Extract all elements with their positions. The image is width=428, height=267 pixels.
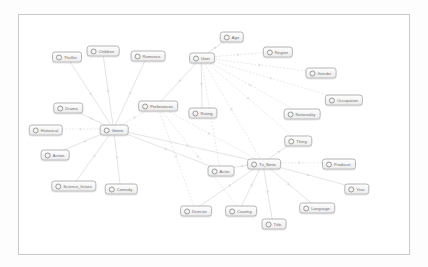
graph-node-thriller[interactable]: Thriller xyxy=(52,52,82,63)
circle-node-icon xyxy=(55,183,61,189)
graph-node-year[interactable]: Year xyxy=(344,184,369,195)
circle-node-icon xyxy=(135,53,141,59)
circle-node-icon xyxy=(104,127,110,133)
graph-node-label: Language xyxy=(311,206,330,211)
graph-node-drama[interactable]: Drama xyxy=(53,103,83,114)
graph-node-genre[interactable]: Genre xyxy=(100,125,129,136)
graph-node-label: Thing xyxy=(296,139,307,144)
diagram-canvas[interactable]: ThrillerChildrenRomanceDramaHistoricalAc… xyxy=(18,14,410,255)
graph-node-label: Action xyxy=(53,153,65,158)
graph-node-actor[interactable]: Actor xyxy=(208,166,235,177)
graph-node-label: Producer xyxy=(334,162,351,167)
graph-node-label: Tv_Serie xyxy=(259,162,276,167)
graph-node-label: Rating xyxy=(200,111,212,116)
graph-node-country[interactable]: Country xyxy=(225,206,257,217)
circle-node-icon xyxy=(267,49,273,55)
graph-node-children[interactable]: Children xyxy=(87,46,120,57)
graph-node-label: Region xyxy=(275,50,288,55)
graph-node-label: Comedy xyxy=(117,187,133,192)
graph-node-label: Children xyxy=(99,49,115,54)
graph-node-user[interactable]: User xyxy=(189,53,215,64)
graph-node-historical[interactable]: Historical xyxy=(29,125,63,136)
graph-node-label: Title xyxy=(274,222,282,227)
circle-node-icon xyxy=(288,138,294,144)
graph-node-label: Romance xyxy=(143,54,161,59)
circle-node-icon xyxy=(57,105,63,111)
graph-node-label: Genre xyxy=(112,128,124,133)
graph-node-director[interactable]: Director xyxy=(180,206,212,217)
graph-node-occupation[interactable]: Occupation xyxy=(325,95,363,106)
circle-node-icon xyxy=(109,186,115,192)
graph-node-label: Preferences xyxy=(150,104,173,109)
graph-node-label: Thriller xyxy=(64,55,77,60)
graph-node-label: Country xyxy=(237,209,252,214)
circle-node-icon xyxy=(192,110,198,116)
graph-node-science_fiction[interactable]: Science_fiction xyxy=(51,181,96,192)
graph-node-producer[interactable]: Producer xyxy=(322,159,356,170)
graph-node-nationality[interactable]: Nationality xyxy=(284,109,321,120)
graph-node-label: Nationality xyxy=(296,112,316,117)
circle-node-icon xyxy=(224,34,230,40)
circle-node-icon xyxy=(303,205,309,211)
graph-node-label: Occupation xyxy=(337,98,358,103)
circle-node-icon xyxy=(142,103,148,109)
circle-node-icon xyxy=(212,168,218,174)
node-layer: ThrillerChildrenRomanceDramaHistoricalAc… xyxy=(19,15,409,254)
graph-node-comedy[interactable]: Comedy xyxy=(105,184,138,195)
graph-node-tv_serie[interactable]: Tv_Serie xyxy=(247,159,281,170)
circle-node-icon xyxy=(56,54,62,60)
graph-node-label: Year xyxy=(356,187,364,192)
graph-node-label: User xyxy=(201,56,210,61)
circle-node-icon xyxy=(193,55,199,61)
graph-editor-window: ThrillerChildrenRomanceDramaHistoricalAc… xyxy=(0,0,428,267)
circle-node-icon xyxy=(288,111,294,117)
circle-node-icon xyxy=(348,186,354,192)
graph-node-label: Historical xyxy=(41,128,58,133)
graph-node-preferences[interactable]: Preferences xyxy=(138,101,178,112)
circle-node-icon xyxy=(184,208,190,214)
circle-node-icon xyxy=(45,152,51,158)
graph-node-title[interactable]: Title xyxy=(262,219,287,230)
graph-node-label: Actor xyxy=(220,169,230,174)
graph-node-thing[interactable]: Thing xyxy=(284,136,312,147)
graph-node-age[interactable]: Age xyxy=(220,32,244,43)
circle-node-icon xyxy=(251,161,257,167)
circle-node-icon xyxy=(329,97,335,103)
graph-node-gender[interactable]: Gender xyxy=(306,68,337,79)
graph-node-label: Gender xyxy=(318,71,332,76)
graph-node-label: Drama xyxy=(65,106,78,111)
graph-node-action[interactable]: Action xyxy=(41,150,70,161)
circle-node-icon xyxy=(326,161,332,167)
graph-node-label: Age xyxy=(232,35,239,40)
graph-node-label: Science_fiction xyxy=(63,184,91,189)
graph-node-rating[interactable]: Rating xyxy=(188,108,217,119)
circle-node-icon xyxy=(91,48,97,54)
graph-node-label: Director xyxy=(192,209,207,214)
circle-node-icon xyxy=(33,127,39,133)
circle-node-icon xyxy=(266,221,272,227)
graph-node-romance[interactable]: Romance xyxy=(131,51,166,62)
circle-node-icon xyxy=(229,208,235,214)
circle-node-icon xyxy=(310,70,316,76)
graph-node-language[interactable]: Language xyxy=(299,203,335,214)
graph-node-region[interactable]: Region xyxy=(263,47,293,58)
